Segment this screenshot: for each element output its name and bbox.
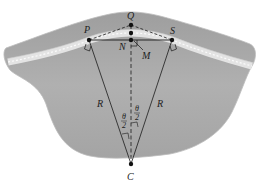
angle-right-numerator: θ <box>135 104 139 113</box>
label-s: S <box>170 25 175 36</box>
label-n: N <box>118 41 127 52</box>
point-mid <box>129 31 133 35</box>
label-radius-right: R <box>156 98 163 109</box>
point-q <box>129 23 133 27</box>
label-p: P <box>83 24 90 35</box>
label-radius-left: R <box>96 98 103 109</box>
label-c: C <box>127 171 134 182</box>
angle-left-denominator: 2 <box>122 121 126 130</box>
point-p <box>87 38 91 42</box>
angle-left-numerator: θ <box>122 112 126 121</box>
point-s <box>170 38 174 42</box>
angle-right-denominator: 2 <box>135 113 139 122</box>
label-q: Q <box>127 10 135 21</box>
point-c <box>129 162 133 166</box>
point-n <box>129 38 133 42</box>
curve-geometry-diagram: Q P S N M C R R θ 2 θ 2 <box>0 0 262 184</box>
label-m: M <box>141 50 151 61</box>
